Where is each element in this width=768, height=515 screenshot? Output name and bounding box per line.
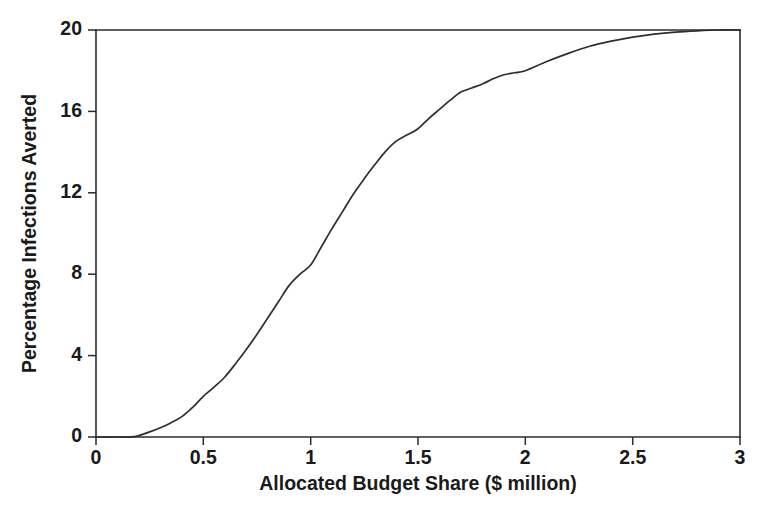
- data-series-line: [96, 30, 740, 437]
- y-tick-label-4: 4: [71, 343, 82, 365]
- x-tick-label-0: 0: [91, 446, 102, 468]
- plot-frame: [96, 30, 740, 437]
- x-tick-label-1p5: 1.5: [404, 446, 431, 468]
- x-tick-label-3: 3: [735, 446, 746, 468]
- y-axis-ticks: [88, 30, 96, 437]
- x-axis-tick-labels: 0 0.5 1 1.5 2 2.5 3: [91, 446, 746, 468]
- y-tick-label-0: 0: [71, 424, 82, 446]
- y-tick-label-20: 20: [60, 17, 82, 39]
- x-axis-ticks: [96, 437, 740, 445]
- y-tick-label-8: 8: [71, 261, 82, 283]
- line-chart-canvas: 0 4 8 12 16 20 0 0.5 1 1.5 2 2.5 3: [0, 0, 768, 515]
- y-tick-label-16: 16: [60, 99, 82, 121]
- chart-figure: 0 4 8 12 16 20 0 0.5 1 1.5 2 2.5 3: [0, 0, 768, 515]
- y-axis-tick-labels: 0 4 8 12 16 20: [60, 17, 82, 446]
- x-axis-title: Allocated Budget Share ($ million): [259, 472, 576, 494]
- x-tick-label-0p5: 0.5: [190, 446, 217, 468]
- y-axis-title: Percentage Infections Averted: [18, 94, 40, 373]
- x-tick-label-1: 1: [305, 446, 316, 468]
- y-tick-label-12: 12: [60, 180, 82, 202]
- x-tick-label-2p5: 2.5: [619, 446, 646, 468]
- x-tick-label-2: 2: [520, 446, 531, 468]
